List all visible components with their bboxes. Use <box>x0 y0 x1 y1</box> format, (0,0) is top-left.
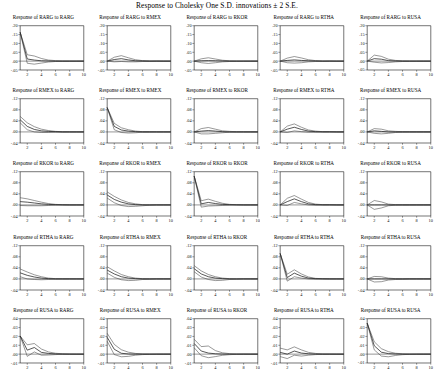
confidence-band-line <box>367 323 431 354</box>
panel-title: Response of RUSA to RARG <box>0 307 87 314</box>
y-tick-label: -.04 <box>11 287 19 292</box>
x-tick-label: 4 <box>40 218 43 223</box>
impulse-response-line <box>194 343 258 354</box>
x-tick-label: 8 <box>69 365 71 370</box>
impulse-response-line <box>107 270 171 279</box>
x-tick-label: 8 <box>329 72 331 77</box>
y-tick-label: .05 <box>186 50 191 55</box>
irf-panel: Response of RTHA to RTHA-.04.00.04.08.12… <box>260 234 347 307</box>
y-tick-label: .03 <box>359 325 364 330</box>
x-tick-label: 6 <box>315 72 317 77</box>
irf-panel: Response of RARG to RUSA-.05.00.05.10.15… <box>347 14 434 87</box>
irf-panel: Response of RMEX to RMEX-.04.00.04.08.12… <box>87 87 174 160</box>
x-tick-label: 10 <box>82 145 86 150</box>
panel-plot: -.04.00.04.08.12246810 <box>174 167 261 229</box>
x-tick-label: 2 <box>26 292 28 297</box>
x-tick-label: 2 <box>113 292 115 297</box>
y-tick-label: -.01 <box>271 360 278 365</box>
axis-frame <box>367 26 431 70</box>
confidence-band-line <box>281 354 345 358</box>
panel-plot: -.01.00.01.02.03.04246810 <box>87 314 174 376</box>
confidence-band-line <box>107 56 171 61</box>
x-tick-label: 10 <box>429 145 433 150</box>
impulse-response-line <box>20 272 84 278</box>
x-tick-label: 4 <box>301 72 304 77</box>
axis-frame <box>281 319 345 363</box>
x-tick-label: 4 <box>387 365 390 370</box>
irf-panel: Response of RUSA to RMEX-.01.00.01.02.03… <box>87 307 174 380</box>
x-tick-label: 4 <box>301 145 304 150</box>
axis-frame <box>20 99 84 143</box>
confidence-band-line <box>367 55 431 61</box>
y-tick-label: .12 <box>186 243 191 248</box>
axis-frame <box>281 245 345 289</box>
y-tick-label: -.04 <box>184 214 192 219</box>
y-tick-label: .00 <box>99 352 104 357</box>
axis-frame <box>194 172 258 216</box>
y-tick-label: .04 <box>99 192 105 197</box>
x-tick-label: 2 <box>113 218 115 223</box>
y-tick-label: .12 <box>273 170 278 175</box>
axis-frame <box>107 245 171 289</box>
x-tick-label: 8 <box>416 292 418 297</box>
panel-title: Response of RKOR to RKOR <box>174 160 261 167</box>
y-tick-label: .04 <box>186 265 192 270</box>
x-tick-label: 6 <box>54 72 56 77</box>
y-tick-label: .05 <box>99 50 104 55</box>
confidence-band-line <box>194 348 258 358</box>
x-tick-label: 4 <box>301 218 304 223</box>
y-tick-label: -.04 <box>11 141 19 146</box>
x-tick-label: 6 <box>228 145 230 150</box>
y-tick-label: .02 <box>12 334 17 339</box>
axis-frame <box>107 99 171 143</box>
confidence-band-line <box>20 198 84 205</box>
x-tick-label: 8 <box>242 292 244 297</box>
x-tick-label: 6 <box>315 145 317 150</box>
panel-title: Response of RKOR to RMEX <box>87 160 174 167</box>
y-tick-label: .04 <box>12 192 18 197</box>
y-tick-label: .12 <box>99 97 104 102</box>
y-tick-label: .10 <box>12 41 17 46</box>
panel-plot: -.04.00.04.08.12246810 <box>0 94 87 156</box>
y-tick-label: .00 <box>359 276 364 281</box>
confidence-band-line <box>367 129 431 132</box>
x-tick-label: 2 <box>200 72 202 77</box>
impulse-response-line <box>367 323 431 354</box>
y-tick-label: .03 <box>273 325 278 330</box>
y-tick-label: .20 <box>12 23 17 28</box>
y-tick-label: .08 <box>359 108 364 113</box>
y-tick-label: .00 <box>99 203 104 208</box>
y-tick-label: .10 <box>359 41 364 46</box>
irf-panel: Response of RKOR to RKOR-.04.00.04.08.12… <box>174 160 261 233</box>
impulse-response-line <box>281 253 345 278</box>
y-tick-label: .12 <box>12 170 17 175</box>
y-tick-label: .05 <box>359 50 364 55</box>
y-tick-label: .20 <box>359 23 364 28</box>
panel-plot: -.04.00.04.08.12246810 <box>174 94 261 156</box>
y-tick-label: .12 <box>12 97 17 102</box>
confidence-band-line <box>20 117 84 133</box>
x-tick-label: 2 <box>200 145 202 150</box>
y-tick-label: .04 <box>12 316 18 321</box>
x-tick-label: 10 <box>429 72 433 77</box>
y-tick-label: .04 <box>99 265 105 270</box>
panel-title: Response of RMEX to RUSA <box>347 87 434 94</box>
x-tick-label: 4 <box>387 218 390 223</box>
x-tick-label: 2 <box>373 365 375 370</box>
panel-title: Response of RARG to RTHA <box>260 14 347 21</box>
y-tick-label: .00 <box>12 130 17 135</box>
y-tick-label: .10 <box>273 41 278 46</box>
x-tick-label: 8 <box>155 365 157 370</box>
y-tick-label: .04 <box>12 265 18 270</box>
y-tick-label: .00 <box>186 59 191 64</box>
panel-title: Response of RKOR to RTHA <box>260 160 347 167</box>
y-tick-label: -.04 <box>358 141 366 146</box>
x-tick-label: 2 <box>113 145 115 150</box>
y-tick-label: -.01 <box>97 360 104 365</box>
panel-plot: -.04.00.04.08.12246810 <box>260 167 347 229</box>
y-tick-label: .20 <box>99 23 104 28</box>
x-tick-label: 4 <box>214 72 217 77</box>
axis-frame <box>367 172 431 216</box>
panel-title: Response of RTHA to RTHA <box>260 234 347 241</box>
y-tick-label: .12 <box>359 170 364 175</box>
